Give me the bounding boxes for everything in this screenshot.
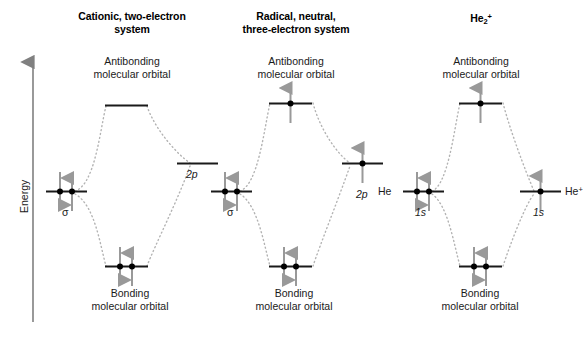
- electrons-antibonding-p3: [478, 88, 484, 123]
- electrons-right-2p-p2: [360, 148, 366, 183]
- orbital-label-1s-left-p3: 1s: [415, 206, 426, 218]
- correlation-left-bonding: [75, 194, 106, 266]
- antibonding-caption-p2: Antibonding molecular orbital: [200, 55, 392, 81]
- antibonding-caption-p3: Antibonding molecular orbital: [385, 55, 577, 81]
- correlation-right-bonding: [147, 166, 190, 266]
- panel-he2-graphics: [403, 88, 561, 286]
- bonding-caption-line2-p1: molecular orbital: [91, 300, 168, 312]
- antibonding-caption-line2-p2: molecular orbital: [257, 68, 334, 80]
- antibonding-caption-line1-p2: Antibonding: [268, 55, 323, 67]
- mo-diagram-figure: Energy Cationic, two-electronsystem Anti…: [0, 0, 588, 337]
- panel-title-radical: Radical, neutral,three-electron system: [200, 10, 392, 36]
- orbital-label-sigma-p1: σ: [62, 206, 68, 218]
- correlation-left-antibonding-p3: [432, 103, 460, 191]
- correlation-right-antibonding: [147, 106, 190, 163]
- correlation-right-bonding-p3: [503, 194, 534, 266]
- correlation-left-antibonding-p2: [240, 103, 270, 191]
- antibonding-caption-line2-p1: molecular orbital: [93, 68, 170, 80]
- electrons-antibonding-p2: [288, 88, 294, 123]
- correlation-left-bonding-p3: [432, 194, 460, 266]
- antibonding-caption-line1-p1: Antibonding: [104, 55, 159, 67]
- bonding-caption-line1-p2: Bonding: [275, 287, 314, 299]
- correlation-left-antibonding: [75, 106, 106, 191]
- orbital-label-2p-p2: 2p: [356, 188, 368, 200]
- bonding-caption-line2-p2: molecular orbital: [255, 300, 332, 312]
- antibonding-caption-line1-p3: Antibonding: [453, 55, 508, 67]
- panel-cationic-graphics: [46, 106, 218, 287]
- correlation-right-antibonding-p2: [313, 103, 350, 163]
- bonding-caption-p2: Bonding molecular orbital: [198, 287, 390, 313]
- bonding-caption-line1-p3: Bonding: [461, 287, 500, 299]
- correlation-right-antibonding-p3: [503, 103, 534, 191]
- orbital-label-1s-right-p3: 1s: [533, 206, 544, 218]
- panel-title-he2-cation: He2+: [385, 10, 577, 28]
- panel-radical-graphics: [211, 88, 383, 286]
- atom-label-he: He: [378, 185, 391, 197]
- orbital-label-2p-p1: 2p: [186, 168, 198, 180]
- correlation-left-bonding-p2: [240, 194, 270, 266]
- atom-label-he-cation: He+: [565, 185, 583, 197]
- antibonding-caption-line2-p3: molecular orbital: [442, 68, 519, 80]
- energy-axis-label: Energy: [18, 180, 30, 213]
- bonding-caption-p3: Bonding molecular orbital: [384, 287, 576, 313]
- bonding-caption-line2-p3: molecular orbital: [441, 300, 518, 312]
- bonding-caption-line1-p1: Bonding: [111, 287, 150, 299]
- correlation-right-bonding-p2: [313, 166, 350, 266]
- orbital-label-sigma-p2: σ: [227, 206, 233, 218]
